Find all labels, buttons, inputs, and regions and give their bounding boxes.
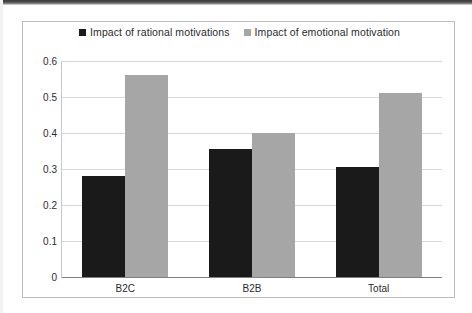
- x-axis-tick-label: B2C: [62, 283, 189, 294]
- plot-area: 00.10.20.30.40.50.6: [62, 61, 442, 277]
- y-axis-tick-label: 0.3: [43, 164, 57, 175]
- bar: [379, 93, 422, 277]
- scan-artifact-top-band: [0, 0, 472, 5]
- y-axis-tick-label: 0.2: [43, 200, 57, 211]
- x-axis-line: [62, 277, 442, 278]
- legend-label-emotional: Impact of emotional motivation: [255, 26, 400, 38]
- bar-group: [315, 61, 442, 277]
- chart-container: Impact of rational motivations Impact of…: [22, 21, 455, 298]
- y-axis-tick-label: 0.5: [43, 92, 57, 103]
- bar-group: [189, 61, 316, 277]
- chart-legend: Impact of rational motivations Impact of…: [23, 26, 456, 38]
- y-axis-tick-label: 0.6: [43, 56, 57, 67]
- bar: [125, 75, 168, 277]
- bar-groups: [62, 61, 442, 277]
- x-axis-tick-label: Total: [315, 283, 442, 294]
- y-axis-tick-label: 0: [51, 272, 57, 283]
- scan-artifact-left-edge: [0, 0, 3, 313]
- legend-label-rational: Impact of rational motivations: [90, 26, 230, 38]
- bar: [209, 149, 252, 277]
- bar: [336, 167, 379, 277]
- legend-entry-emotional: Impact of emotional motivation: [244, 26, 400, 38]
- y-axis-tick-label: 0.1: [43, 236, 57, 247]
- legend-entry-rational: Impact of rational motivations: [79, 26, 230, 38]
- legend-swatch-rational-icon: [79, 29, 86, 36]
- bar: [82, 176, 125, 277]
- bar-group: [62, 61, 189, 277]
- x-axis-tick-label: B2B: [189, 283, 316, 294]
- bar: [252, 133, 295, 277]
- y-axis-tick-label: 0.4: [43, 128, 57, 139]
- legend-swatch-emotional-icon: [244, 29, 251, 36]
